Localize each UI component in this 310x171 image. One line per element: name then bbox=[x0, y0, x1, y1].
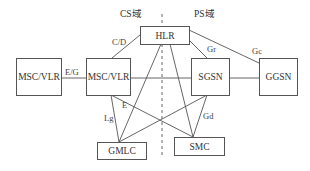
node-msc-vlr: MSC/VLR bbox=[86, 58, 131, 96]
node-gmlc: GMLC bbox=[97, 142, 147, 160]
node-ggsn: GGSN bbox=[259, 58, 298, 96]
edge-label-cd: C/D bbox=[112, 38, 126, 47]
ps-domain-label: PS域 bbox=[194, 10, 215, 20]
node-hlr: HLR bbox=[140, 26, 190, 45]
node-label: GMLC bbox=[108, 146, 135, 156]
node-msc-vlr-remote: MSC/VLR bbox=[16, 58, 62, 96]
edge-gr bbox=[189, 40, 207, 58]
edge-label-gd: Gd bbox=[203, 112, 213, 121]
node-sgsn: SGSN bbox=[191, 58, 230, 96]
edge-label-e: E bbox=[122, 101, 127, 110]
cs-domain-label: CS域 bbox=[120, 10, 142, 20]
edge-label-eg: E/G bbox=[65, 68, 79, 77]
node-label: SGSN bbox=[198, 72, 222, 82]
edge-label-gc: Gc bbox=[252, 47, 262, 56]
node-smc: SMC bbox=[174, 137, 225, 156]
edge-hlr-smc bbox=[170, 44, 193, 137]
edge-label-lg: Lg bbox=[104, 114, 113, 123]
node-label: HLR bbox=[156, 31, 175, 41]
node-label: MSC/VLR bbox=[18, 72, 60, 82]
edge-label-gr: Gr bbox=[207, 45, 216, 54]
node-label: SMC bbox=[189, 142, 209, 152]
node-label: MSC/VLR bbox=[88, 72, 130, 82]
node-label: GGSN bbox=[266, 72, 292, 82]
